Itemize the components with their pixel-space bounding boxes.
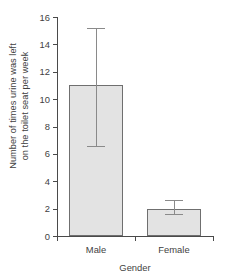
error-bar-cap-upper-female	[165, 200, 183, 201]
y-tick-mark	[53, 127, 57, 128]
x-tick-label-female: Female	[158, 244, 189, 255]
error-bar-cap-upper-male	[87, 28, 105, 29]
y-tick-label: 14	[40, 38, 50, 51]
x-tick-mark	[57, 236, 58, 241]
y-tick-label: 4	[45, 175, 50, 188]
y-tick-mark	[53, 72, 57, 73]
bar-chart: Number of times urine was left on the to…	[0, 0, 226, 280]
y-tick-label: 12	[40, 65, 50, 78]
y-tick-label: 6	[45, 147, 50, 160]
y-tick-label: 10	[40, 93, 50, 106]
y-tick-mark	[53, 154, 57, 155]
error-bar-line-female	[174, 200, 175, 214]
y-tick-label: 0	[45, 230, 50, 243]
y-axis-line	[57, 17, 58, 236]
y-tick-mark	[53, 99, 57, 100]
y-tick-mark	[53, 181, 57, 182]
y-axis-title-line-2: on the toilet seat per week	[20, 6, 32, 206]
error-bar-cap-lower-male	[87, 146, 105, 147]
y-tick-label: 16	[40, 11, 50, 24]
plot-area: 0246810121416 MaleFemale Gender	[57, 17, 213, 236]
error-bar-line-male	[96, 28, 97, 146]
error-bar-cap-lower-female	[165, 214, 183, 215]
y-axis-title: Number of times urine was left on the to…	[8, 6, 48, 206]
y-tick-label: 2	[45, 202, 50, 215]
y-tick-label: 8	[45, 120, 50, 133]
y-axis-title-line-1: Number of times urine was left	[8, 6, 20, 206]
x-tick-label-male: Male	[86, 244, 106, 255]
x-tick-mark	[135, 236, 136, 241]
y-tick-mark	[53, 17, 57, 18]
x-tick-mark	[213, 236, 214, 241]
y-tick-mark	[53, 44, 57, 45]
y-tick-mark	[53, 209, 57, 210]
x-axis-title: Gender	[119, 262, 150, 273]
